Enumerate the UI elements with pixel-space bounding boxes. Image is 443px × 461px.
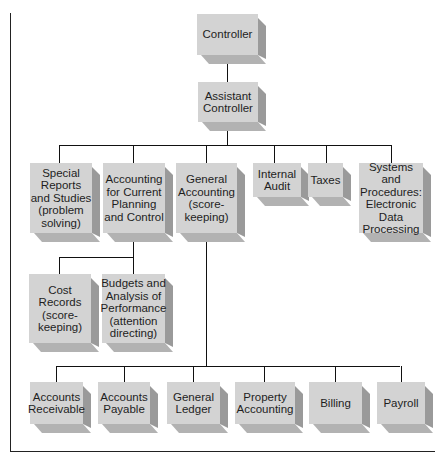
- connector-general-accounting-down: [206, 242, 207, 367]
- box-side: [220, 386, 228, 428]
- box-side: [362, 386, 370, 428]
- connector-accounts-payable: [124, 366, 125, 382]
- box-side: [258, 18, 266, 59]
- node-label: Billing: [309, 382, 362, 424]
- box-side: [425, 386, 433, 428]
- box-bottom: [34, 233, 100, 242]
- box-bottom: [313, 424, 370, 433]
- node-label: Controller: [197, 14, 258, 55]
- node-systems: Systems and Procedures: Electronic Data …: [359, 163, 423, 233]
- node-label: Internal Audit: [253, 163, 301, 197]
- box-bottom: [34, 424, 91, 433]
- connector-general-accounting: [206, 145, 207, 163]
- box-bottom: [180, 233, 245, 242]
- connector-property-accounting: [264, 366, 265, 382]
- node-current-planning: Accounting for Current Planning and Cont…: [103, 163, 165, 233]
- box-side: [237, 167, 245, 237]
- node-label: General Ledger: [167, 382, 220, 424]
- node-billing: Billing: [309, 382, 362, 424]
- connector-level3-horizontal: [59, 257, 134, 258]
- node-cost-records: Cost Records (score- keeping): [29, 274, 91, 343]
- node-general-ledger: General Ledger: [167, 382, 220, 424]
- node-label: Taxes: [308, 163, 343, 197]
- connector-taxes: [326, 145, 327, 163]
- connector-cost-records: [59, 257, 60, 274]
- box-bottom: [201, 55, 266, 64]
- box-bottom: [239, 424, 303, 433]
- node-label: Assistant Controller: [198, 82, 258, 122]
- node-label: General Accounting (score- keeping): [176, 163, 237, 233]
- box-bottom: [106, 343, 173, 352]
- connector-payroll: [401, 366, 402, 382]
- node-internal-audit: Internal Audit: [253, 163, 301, 197]
- box-side: [91, 278, 99, 347]
- node-budgets: Budgets and Analysis of Performance (att…: [102, 274, 165, 343]
- box-bottom: [33, 343, 99, 352]
- connector-billing: [335, 366, 336, 382]
- box-side: [423, 167, 431, 237]
- box-bottom: [257, 197, 309, 206]
- node-assistant-controller: Assistant Controller: [198, 82, 258, 122]
- box-side: [165, 167, 173, 237]
- node-accounts-payable: Accounts Payable: [98, 382, 150, 424]
- box-bottom: [381, 424, 433, 433]
- node-special-reports: Special Reports and Studies (problem sol…: [30, 163, 92, 233]
- connector-internal-audit: [274, 145, 275, 163]
- box-side: [258, 86, 266, 126]
- frame-bottom-border: [10, 451, 435, 452]
- box-bottom: [312, 197, 351, 206]
- node-property-accounting: Property Accounting: [235, 382, 295, 424]
- box-side: [343, 167, 351, 201]
- box-side: [92, 167, 100, 237]
- node-label: Property Accounting: [235, 382, 295, 424]
- node-label: Accounts Payable: [98, 382, 150, 424]
- connector-level4-horizontal: [56, 366, 400, 367]
- node-label: Systems and Procedures: Electronic Data …: [359, 163, 423, 233]
- connector-current-planning: [133, 145, 134, 163]
- node-payroll: Payroll: [377, 382, 425, 424]
- box-side: [295, 386, 303, 428]
- connector-general-ledger: [193, 366, 194, 382]
- connector-planning-down: [133, 242, 134, 258]
- node-label: Special Reports and Studies (problem sol…: [30, 163, 92, 233]
- node-label: Cost Records (score- keeping): [29, 274, 91, 343]
- box-bottom: [102, 424, 158, 433]
- connector-accounts-receivable: [56, 366, 57, 382]
- node-taxes: Taxes: [308, 163, 343, 197]
- node-controller: Controller: [197, 14, 258, 55]
- node-accounts-receivable: Accounts Receivable: [30, 382, 83, 424]
- frame-left-border: [10, 13, 11, 452]
- node-label: Accounting for Current Planning and Cont…: [103, 163, 165, 233]
- box-side: [150, 386, 158, 428]
- node-label: Payroll: [377, 382, 425, 424]
- connector-special-reports: [59, 145, 60, 163]
- connector-level2-horizontal: [59, 145, 392, 146]
- box-bottom: [107, 233, 173, 242]
- node-label: Budgets and Analysis of Performance (att…: [102, 274, 165, 343]
- connector-budgets: [133, 257, 134, 274]
- box-bottom: [171, 424, 228, 433]
- box-bottom: [202, 122, 266, 131]
- node-general-accounting: General Accounting (score- keeping): [176, 163, 237, 233]
- node-label: Accounts Receivable: [30, 382, 83, 424]
